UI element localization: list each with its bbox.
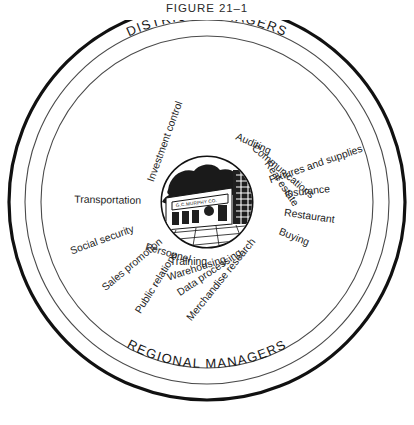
hub-door bbox=[218, 205, 227, 221]
spoke-label-social-security: Social security bbox=[69, 223, 136, 257]
regional-managers-band: REGIONAL MANAGERS bbox=[125, 336, 289, 371]
wheel-diagram: DISTRICT MANAGERS REGIONAL MANAGERS bbox=[0, 20, 414, 425]
hub-window bbox=[182, 211, 189, 224]
wheel-chart-svg: DISTRICT MANAGERS REGIONAL MANAGERS bbox=[0, 20, 414, 425]
hub-window bbox=[172, 212, 179, 225]
spoke-label-buying: Buying bbox=[278, 225, 312, 247]
hub-round-window bbox=[204, 206, 214, 216]
regional-managers-label: REGIONAL MANAGERS bbox=[125, 336, 289, 371]
figure-caption: FIGURE 21–1 bbox=[0, 2, 414, 14]
hub-medallion: G.C.MURPHY CO. bbox=[154, 155, 257, 252]
spoke-label-restaurant: Restaurant bbox=[284, 207, 336, 225]
hub-window bbox=[192, 210, 199, 223]
hub-illustration: G.C.MURPHY CO. bbox=[154, 155, 257, 252]
hub-tall-building bbox=[233, 170, 257, 224]
spoke-label-transportation: Transportation bbox=[74, 193, 141, 205]
